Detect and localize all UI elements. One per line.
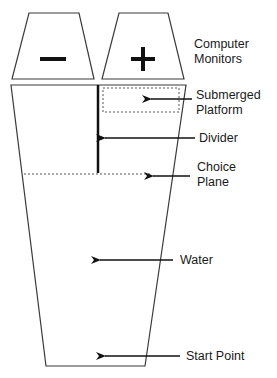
label-water: Water	[180, 253, 213, 268]
label-submerged-platform: Submerged Platform	[196, 88, 261, 118]
minus-icon	[40, 57, 66, 61]
label-choice-plane: Choice Plane	[197, 160, 236, 190]
right-monitor	[102, 13, 184, 79]
label-computer-monitors: Computer Monitors	[194, 37, 249, 67]
label-start-point: Start Point	[186, 349, 244, 364]
left-monitor	[12, 13, 94, 79]
label-divider: Divider	[199, 131, 238, 146]
